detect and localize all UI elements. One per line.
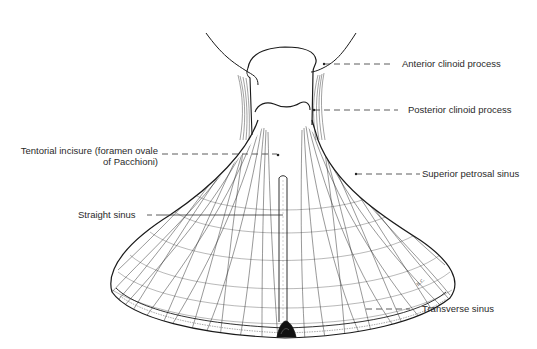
label-anterior-clinoid-process: Anterior clinoid process [402, 58, 501, 69]
left-sphenoid-edge [206, 33, 258, 85]
label-tentorial-incisure-line1: Tentorial incisure (foramen ovale [14, 145, 158, 156]
right-sphenoid-edge [311, 33, 356, 72]
label-straight-sinus: Straight sinus [78, 209, 136, 220]
label-superior-petrosal-sinus: Superior petrosal sinus [422, 168, 519, 179]
label-tentorial-incisure: Tentorial incisure (foramen ovale of Pac… [14, 145, 158, 167]
artist-signature: n.c. [415, 276, 426, 286]
label-posterior-clinoid-process: Posterior clinoid process [408, 104, 512, 115]
sella-outline [248, 47, 316, 125]
dorsum-sellae [255, 102, 310, 112]
straight-sinus [279, 176, 287, 322]
label-tentorial-incisure-line2: of Pacchioni) [14, 156, 158, 167]
confluence-of-sinuses [277, 321, 296, 337]
label-transverse-sinus: Transverse sinus [422, 303, 494, 314]
